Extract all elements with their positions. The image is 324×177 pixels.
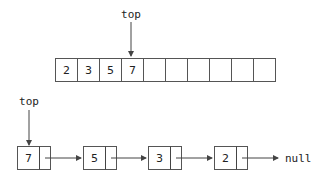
node-value: 3 bbox=[156, 152, 163, 165]
array-cell bbox=[166, 59, 188, 82]
array-cell bbox=[144, 59, 166, 82]
array-cell bbox=[232, 59, 254, 82]
array-cell bbox=[254, 59, 276, 82]
list-top-label: top bbox=[19, 95, 39, 108]
array-cell-value: 5 bbox=[107, 64, 114, 77]
array-cell-value: 3 bbox=[85, 64, 92, 77]
array-cell bbox=[188, 59, 210, 82]
node-value: 2 bbox=[222, 152, 229, 165]
array-cell-value: 7 bbox=[129, 64, 136, 77]
linked-stack: top 7 5 3 2 null bbox=[18, 95, 312, 170]
array-stack: top 2 3 5 7 bbox=[56, 8, 276, 82]
array-cell bbox=[210, 59, 232, 82]
null-label: null bbox=[285, 152, 312, 165]
node-value: 5 bbox=[91, 152, 98, 165]
stack-diagram: top 2 3 5 7 top 7 bbox=[0, 0, 324, 177]
array-top-label: top bbox=[121, 8, 141, 21]
array-cell-value: 2 bbox=[63, 64, 70, 77]
node-value: 7 bbox=[25, 152, 32, 165]
